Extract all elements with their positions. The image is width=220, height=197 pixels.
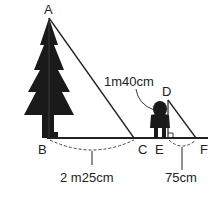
label-B: B	[38, 142, 47, 157]
EF-dashed-arc	[169, 140, 196, 146]
person-height-label: 1m40cm	[104, 74, 154, 89]
line-DF	[168, 100, 196, 138]
label-A: A	[44, 2, 53, 17]
BC-dashed-arc	[50, 140, 134, 150]
EF-length-label: 75cm	[165, 170, 197, 185]
label-D: D	[162, 84, 171, 99]
shadow-diagram: A B C D E F 1m40cm 2 m25cm 75cm	[0, 0, 220, 197]
leader-line	[136, 89, 154, 110]
label-C: C	[138, 142, 147, 157]
label-F: F	[200, 142, 208, 157]
BC-length-label: 2 m25cm	[60, 170, 113, 185]
label-E: E	[155, 142, 164, 157]
person-icon	[150, 101, 170, 138]
